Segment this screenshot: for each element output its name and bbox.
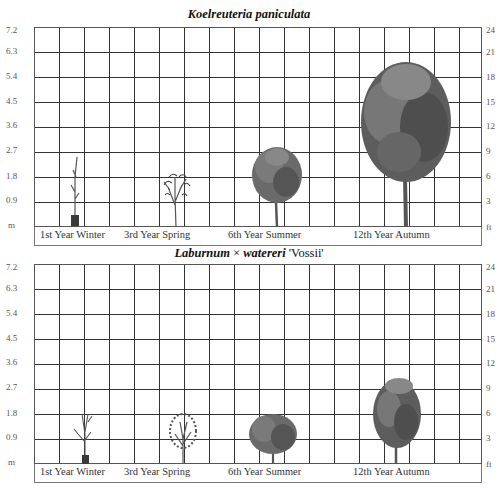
tree-1st-year-winter — [71, 157, 79, 226]
y-tick-ft: 21 — [486, 284, 495, 294]
y-tick-ft: 9 — [486, 383, 491, 393]
y-unit-ft: ft — [486, 222, 492, 232]
stage-label: 3rd Year Spring — [124, 466, 190, 477]
y-tick-ft: 24 — [486, 262, 495, 272]
y-tick-m: 6.3 — [6, 46, 30, 56]
y-tick-ft: 18 — [486, 309, 495, 319]
y-tick-m: 0.9 — [6, 432, 30, 442]
stage-label: 12th Year Autumn — [353, 466, 430, 477]
y-tick-m: 7.2 — [6, 262, 30, 272]
tree-12th-year-autumn — [361, 62, 451, 227]
y-tick-m: 2.7 — [6, 145, 30, 155]
stage-label: 6th Year Summer — [228, 229, 301, 240]
y-tick-ft: 12 — [486, 358, 495, 368]
stage-label: 6th Year Summer — [228, 466, 301, 477]
y-tick-m: 2.7 — [6, 382, 30, 392]
y-tick-ft: 9 — [486, 146, 491, 156]
tree-1st-year-winter — [74, 414, 92, 464]
y-tick-m: 5.4 — [6, 308, 30, 318]
tree-illustrations — [34, 27, 482, 227]
y-tick-ft: 21 — [486, 47, 495, 57]
y-tick-ft: 15 — [486, 97, 495, 107]
y-tick-m: 4.5 — [6, 333, 30, 343]
stage-label-band: 1st Year Winter 3rd Year Spring 6th Year… — [34, 227, 482, 246]
tree-3rd-year-spring — [170, 414, 196, 464]
y-tick-m: 1.8 — [6, 171, 30, 181]
y-tick-ft: 18 — [486, 72, 495, 82]
stage-label: 3rd Year Spring — [124, 229, 190, 240]
stage-label-band: 1st Year Winter 3rd Year Spring 6th Year… — [34, 464, 482, 483]
y-tick-m: 1.8 — [6, 408, 30, 418]
tree-6th-year-summer — [252, 147, 302, 227]
y-unit-m: m — [8, 220, 32, 230]
stage-label: 1st Year Winter — [40, 229, 105, 240]
y-unit-m: m — [8, 457, 32, 467]
chart-title: Laburnum × watereri 'Vossii' — [0, 246, 498, 261]
stage-label: 1st Year Winter — [40, 466, 105, 477]
stage-label: 12th Year Autumn — [353, 229, 430, 240]
y-tick-m: 6.3 — [6, 283, 30, 293]
y-unit-ft: ft — [486, 459, 492, 469]
y-tick-ft: 12 — [486, 121, 495, 131]
tree-3rd-year-spring — [164, 174, 190, 227]
y-tick-m: 5.4 — [6, 71, 30, 81]
y-tick-ft: 3 — [486, 433, 491, 443]
tree-12th-year-autumn — [373, 378, 421, 464]
tree-6th-year-summer — [249, 414, 297, 464]
y-tick-ft: 6 — [486, 171, 491, 181]
y-tick-m: 3.6 — [6, 357, 30, 367]
tree-illustrations — [34, 264, 482, 464]
y-tick-m: 4.5 — [6, 96, 30, 106]
y-tick-m: 3.6 — [6, 120, 30, 130]
y-tick-ft: 15 — [486, 334, 495, 344]
y-tick-m: 7.2 — [6, 25, 30, 35]
y-tick-m: 0.9 — [6, 195, 30, 205]
y-tick-ft: 6 — [486, 408, 491, 418]
y-tick-ft: 24 — [486, 25, 495, 35]
chart-title: Koelreuteria paniculata — [0, 7, 498, 22]
y-tick-ft: 3 — [486, 196, 491, 206]
